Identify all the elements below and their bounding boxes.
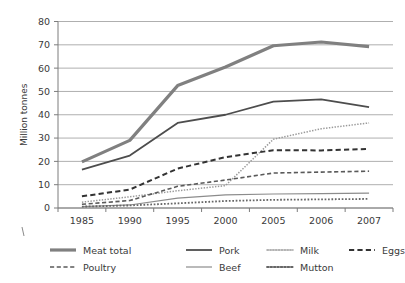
x-tick-label-2000: 2000 <box>213 215 237 226</box>
legend-label-milk: Milk <box>300 245 319 256</box>
y-tick-label-0: 0 <box>44 202 50 213</box>
legend-label-mutton: Mutton <box>300 262 334 273</box>
y-tick-label-80: 80 <box>38 16 50 27</box>
chart-container: 01020304050607080 1985199019952000200520… <box>0 0 405 283</box>
x-tick-label-2007: 2007 <box>357 215 381 226</box>
legend-label-pork: Pork <box>219 245 240 256</box>
y-axis-title-group: Million tonnes <box>19 83 29 146</box>
y-axis-title: Million tonnes <box>19 83 29 146</box>
legend-label-poultry: Poultry <box>83 262 116 273</box>
y-tick-label-50: 50 <box>38 86 50 97</box>
y-tick-label-10: 10 <box>38 179 50 190</box>
y-tick-label-40: 40 <box>38 109 50 120</box>
chart-background <box>0 0 405 283</box>
y-tick-label-30: 30 <box>38 132 50 143</box>
x-tick-label-1990: 1990 <box>118 215 142 226</box>
legend-label-beef: Beef <box>219 262 241 273</box>
x-tick-label-2006: 2006 <box>309 215 333 226</box>
x-tick-label-2005: 2005 <box>261 215 285 226</box>
line-chart: 01020304050607080 1985199019952000200520… <box>0 0 405 283</box>
y-tick-label-70: 70 <box>38 39 50 50</box>
legend-label-eggs: Eggs <box>382 245 405 256</box>
x-tick-label-1985: 1985 <box>70 215 94 226</box>
legend-label-meat-total: Meat total <box>83 245 131 256</box>
y-tick-label-60: 60 <box>38 63 50 74</box>
x-tick-label-1995: 1995 <box>166 215 190 226</box>
y-tick-label-20: 20 <box>38 156 50 167</box>
y-tick-labels-group: 01020304050607080 <box>38 16 50 214</box>
